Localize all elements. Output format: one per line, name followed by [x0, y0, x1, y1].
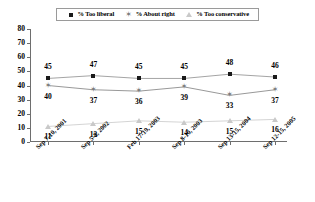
square-icon — [137, 76, 141, 80]
data-label: 33 — [226, 102, 234, 110]
x-tick-mark — [139, 142, 140, 145]
star-icon: ✶ — [226, 91, 233, 99]
y-tick-mark — [27, 29, 30, 30]
y-tick-label: 10 — [18, 124, 26, 132]
y-tick-label: 50 — [18, 68, 26, 76]
series-lines — [30, 29, 287, 142]
legend-entry[interactable]: ✶% About right — [124, 10, 175, 19]
star-icon: ✶ — [181, 83, 188, 91]
data-label: 47 — [90, 61, 98, 69]
y-tick-label: 70 — [18, 39, 26, 47]
data-point — [225, 70, 234, 79]
data-point — [180, 118, 189, 127]
data-label: 37 — [271, 97, 279, 105]
star-icon: ✶ — [90, 86, 97, 94]
star-icon: ✶ — [272, 86, 279, 94]
x-tick-mark — [184, 142, 185, 145]
y-tick-mark — [27, 43, 30, 44]
data-point — [225, 116, 234, 125]
legend-marker — [66, 10, 75, 19]
data-label: 46 — [271, 62, 279, 70]
y-tick-mark — [27, 86, 30, 87]
star-icon: ✶ — [125, 11, 132, 19]
triangle-icon — [181, 120, 187, 125]
data-label: 45 — [44, 63, 52, 71]
star-icon: ✶ — [45, 82, 52, 90]
square-icon — [228, 72, 232, 76]
data-point: ✶ — [225, 91, 234, 100]
data-point: ✶ — [271, 85, 280, 94]
y-tick-label: 60 — [18, 54, 26, 62]
data-point: ✶ — [180, 82, 189, 91]
y-tick-label: 80 — [18, 25, 26, 33]
triangle-icon — [272, 117, 278, 122]
legend-entry[interactable]: % Too conservative — [185, 10, 249, 19]
series-line — [48, 74, 275, 78]
data-point: ✶ — [89, 85, 98, 94]
data-point: ✶ — [44, 81, 53, 90]
square-icon — [69, 13, 73, 17]
x-tick-mark — [93, 142, 94, 145]
legend-entry[interactable]: % Too liberal — [66, 10, 114, 19]
data-point — [271, 115, 280, 124]
data-label: 36 — [135, 98, 143, 106]
data-point — [134, 116, 143, 125]
triangle-icon — [136, 118, 142, 123]
data-label: 37 — [90, 97, 98, 105]
data-point — [89, 71, 98, 80]
data-point — [271, 73, 280, 82]
series-line — [48, 86, 275, 96]
y-tick-label: 30 — [18, 96, 26, 104]
legend-marker — [185, 10, 194, 19]
triangle-icon — [90, 121, 96, 126]
x-tick-mark — [48, 142, 49, 145]
data-point: ✶ — [134, 87, 143, 96]
data-label: 48 — [226, 59, 234, 67]
square-icon — [182, 76, 186, 80]
plot-area: 01020304050607080454745454846✶40✶37✶36✶3… — [30, 29, 287, 142]
data-label: 45 — [135, 63, 143, 71]
data-label: 45 — [180, 63, 188, 71]
chart-legend: % Too liberal✶% About right% Too conserv… — [56, 8, 259, 21]
square-icon — [273, 75, 277, 79]
y-tick-mark — [27, 142, 30, 143]
y-tick-mark — [27, 71, 30, 72]
y-tick-mark — [27, 100, 30, 101]
y-tick-mark — [27, 128, 30, 129]
star-icon: ✶ — [135, 87, 142, 95]
y-tick-mark — [27, 57, 30, 58]
y-tick-label: 20 — [18, 110, 26, 118]
y-tick-label: 40 — [18, 82, 26, 90]
triangle-icon — [227, 118, 233, 123]
triangle-icon — [186, 12, 192, 17]
legend-label: % About right — [136, 11, 175, 18]
data-label: 39 — [180, 94, 188, 102]
y-tick-label: 0 — [21, 138, 25, 146]
legend-marker: ✶ — [124, 10, 133, 19]
square-icon — [91, 74, 95, 78]
x-tick-mark — [275, 142, 276, 145]
line-chart: % Too liberal✶% About right% Too conserv… — [0, 0, 315, 202]
legend-label: % Too conservative — [196, 11, 249, 18]
data-label: 40 — [44, 93, 52, 101]
data-point — [134, 74, 143, 83]
y-tick-mark — [27, 114, 30, 115]
legend-label: % Too liberal — [78, 11, 115, 18]
